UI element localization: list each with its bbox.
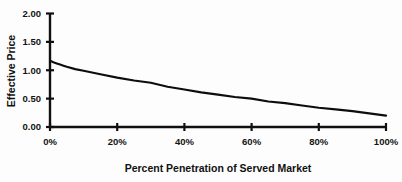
chart-background bbox=[0, 0, 402, 182]
x-axis-tick-label: 20% bbox=[108, 136, 128, 147]
x-axis-title: Percent Penetration of Served Market bbox=[125, 162, 312, 174]
x-axis-tick-label: 0% bbox=[43, 136, 57, 147]
y-axis-tick-label: 0.50 bbox=[23, 93, 42, 104]
y-axis-title: Effective Price bbox=[5, 35, 17, 108]
chart-figure: 0.000.501.001.502.00 Effective Price 0%2… bbox=[0, 0, 402, 182]
y-axis-tick-label: 1.50 bbox=[23, 36, 42, 47]
y-axis-tick-label: 0.00 bbox=[23, 121, 42, 132]
x-axis-tick-label: 100% bbox=[374, 136, 399, 147]
y-axis-tick-label: 2.00 bbox=[23, 8, 42, 19]
x-axis-tick-label: 80% bbox=[309, 136, 329, 147]
y-axis-tick-label: 1.00 bbox=[23, 65, 42, 76]
plot-area: 0.000.501.001.502.00 Effective Price 0%2… bbox=[0, 0, 402, 182]
x-axis-tick-label: 60% bbox=[242, 136, 262, 147]
x-axis-tick-label: 40% bbox=[175, 136, 195, 147]
